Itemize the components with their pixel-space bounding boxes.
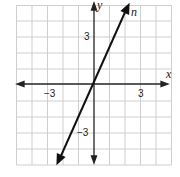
y-axis-label: y bbox=[97, 0, 102, 11]
x-tick-neg3: −3 bbox=[44, 89, 55, 99]
x-axis-label: x bbox=[166, 68, 171, 80]
coordinate-plane bbox=[0, 0, 180, 177]
y-tick-3: 3 bbox=[84, 32, 90, 42]
line-n-label: n bbox=[131, 6, 137, 18]
x-tick-3: 3 bbox=[138, 89, 144, 99]
y-tick-neg3: −3 bbox=[77, 128, 88, 138]
